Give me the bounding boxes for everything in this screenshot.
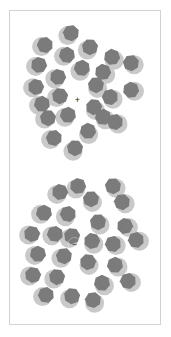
figure-root: + − <box>0 0 171 337</box>
anion-cluster <box>19 178 149 313</box>
cation-cluster <box>23 25 144 161</box>
cation-ring <box>71 93 84 106</box>
solvation-diagram-canvas <box>0 0 171 337</box>
